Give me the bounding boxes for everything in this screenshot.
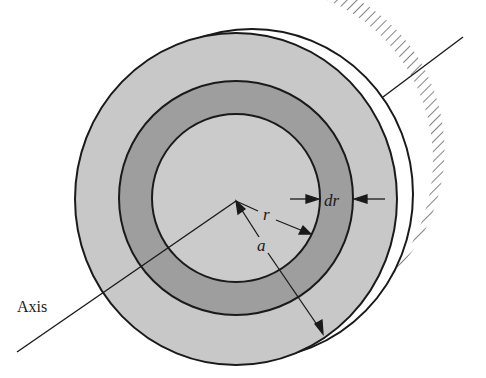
inner-disk — [152, 114, 320, 282]
label-dr: dr — [324, 191, 340, 210]
label-a: a — [257, 236, 266, 255]
disk-diagram: dr r a Axis — [0, 0, 486, 378]
label-axis: Axis — [17, 298, 47, 315]
label-r: r — [263, 205, 270, 224]
